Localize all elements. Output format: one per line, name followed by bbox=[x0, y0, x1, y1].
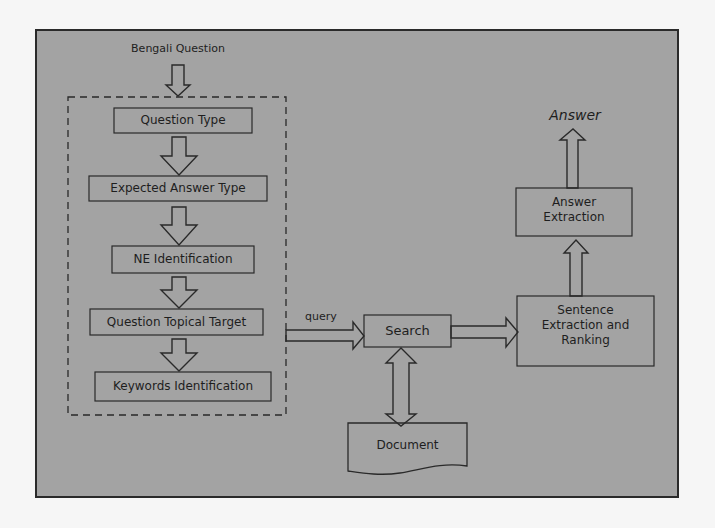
sentence-extraction-line2: Extraction and bbox=[517, 318, 654, 333]
question-type-label: Question Type bbox=[114, 108, 252, 133]
answer-output-label: Answer bbox=[535, 107, 615, 125]
answer-extraction-line1: Answer bbox=[516, 195, 632, 210]
sentence-extraction-label: Sentence Extraction and Ranking bbox=[517, 303, 654, 348]
expected-answer-type-label: Expected Answer Type bbox=[89, 176, 267, 201]
document-label: Document bbox=[348, 430, 467, 460]
sentence-extraction-line3: Ranking bbox=[517, 333, 654, 348]
question-topical-target-label: Question Topical Target bbox=[90, 309, 263, 335]
diagram-stage: Bengali Question Question Type Expected … bbox=[0, 0, 715, 528]
ne-identification-label: NE Identification bbox=[112, 246, 254, 273]
answer-extraction-line2: Extraction bbox=[516, 210, 632, 225]
bengali-question-label: Bengali Question bbox=[118, 42, 238, 56]
keywords-identification-label: Keywords Identification bbox=[95, 372, 271, 401]
answer-extraction-label: Answer Extraction bbox=[516, 195, 632, 225]
query-label: query bbox=[296, 310, 346, 324]
search-label: Search bbox=[364, 315, 451, 347]
sentence-extraction-line1: Sentence bbox=[517, 303, 654, 318]
